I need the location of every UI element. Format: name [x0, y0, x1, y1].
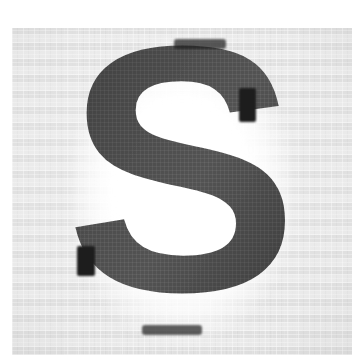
- image-canvas: S: [0, 0, 352, 363]
- scan-panel: S: [12, 28, 352, 355]
- letter-s-text: S: [65, 28, 298, 355]
- glyph-area: S: [64, 28, 300, 355]
- letter-s-glyph: S: [64, 28, 300, 355]
